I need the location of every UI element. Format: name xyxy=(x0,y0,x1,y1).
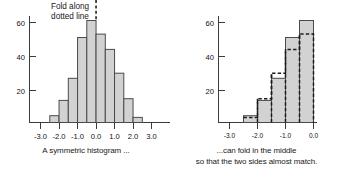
x-tick-label-neg3: -3.0 xyxy=(34,132,47,141)
y-tick-label-60: 60 xyxy=(17,19,25,28)
histogram-bars xyxy=(50,21,143,123)
symmetric-histogram-plot: 60 40 20 xyxy=(0,0,172,146)
histogram-bar xyxy=(68,78,77,122)
y-tick-label-20: 20 xyxy=(206,87,214,96)
right-chart-caption-line1: ...can fold in the middle xyxy=(172,146,341,156)
histogram-bar xyxy=(124,99,133,123)
x-tick-label-neg1: -1.0 xyxy=(71,132,84,141)
y-axis-ticks: 60 40 20 xyxy=(206,19,225,96)
left-chart-caption: A symmetric histogram ... xyxy=(0,146,172,156)
histogram-bar xyxy=(133,117,142,122)
histogram-bar xyxy=(286,38,300,123)
left-chart-panel: Fold along dotted line 60 40 20 xyxy=(0,0,172,178)
x-tick-label-pos1: 1.0 xyxy=(109,132,120,141)
histogram-bar xyxy=(59,100,68,122)
histogram-bar xyxy=(272,78,286,122)
histogram-bar xyxy=(50,116,59,123)
histogram-bar xyxy=(105,49,114,122)
histogram-bar xyxy=(87,21,96,123)
figure-container: Fold along dotted line 60 40 20 xyxy=(0,0,341,178)
y-tick-label-40: 40 xyxy=(206,53,214,62)
histogram-bar xyxy=(78,38,87,123)
x-tick-label-neg2: -2.0 xyxy=(53,132,66,141)
right-chart-panel: 60 40 20 xyxy=(172,0,341,178)
x-axis-tick-labels: -3.0 -2.0 -1.0 0.0 1.0 2.0 3.0 xyxy=(34,132,157,141)
x-tick-label-pos3: 3.0 xyxy=(146,132,157,141)
x-tick-label-neg2: -2.0 xyxy=(252,132,264,139)
folded-histogram-bars xyxy=(244,21,314,123)
y-tick-label-20: 20 xyxy=(17,87,25,96)
y-tick-label-60: 60 xyxy=(206,19,214,28)
x-tick-label-pos2: 2.0 xyxy=(128,132,139,141)
x-axis-ticks xyxy=(230,123,314,129)
y-axis-ticks: 60 40 20 xyxy=(17,19,36,96)
x-tick-label-zero: 0.0 xyxy=(309,132,318,139)
x-tick-label-zero: 0.0 xyxy=(91,132,102,141)
x-axis-ticks xyxy=(41,123,152,129)
histogram-bar xyxy=(300,21,314,123)
histogram-bar xyxy=(96,34,105,122)
histogram-bar xyxy=(258,100,272,122)
x-tick-label-neg1: -1.0 xyxy=(280,132,292,139)
folded-histogram-plot: 60 40 20 xyxy=(172,0,341,146)
histogram-bar xyxy=(115,73,124,122)
x-tick-label-neg3: -3.0 xyxy=(224,132,236,139)
right-chart-caption-line2: so that the two sides almost match. xyxy=(172,157,341,167)
y-tick-label-40: 40 xyxy=(17,53,25,62)
x-axis-tick-labels: -3.0 -2.0 -1.0 0.0 xyxy=(224,132,319,139)
